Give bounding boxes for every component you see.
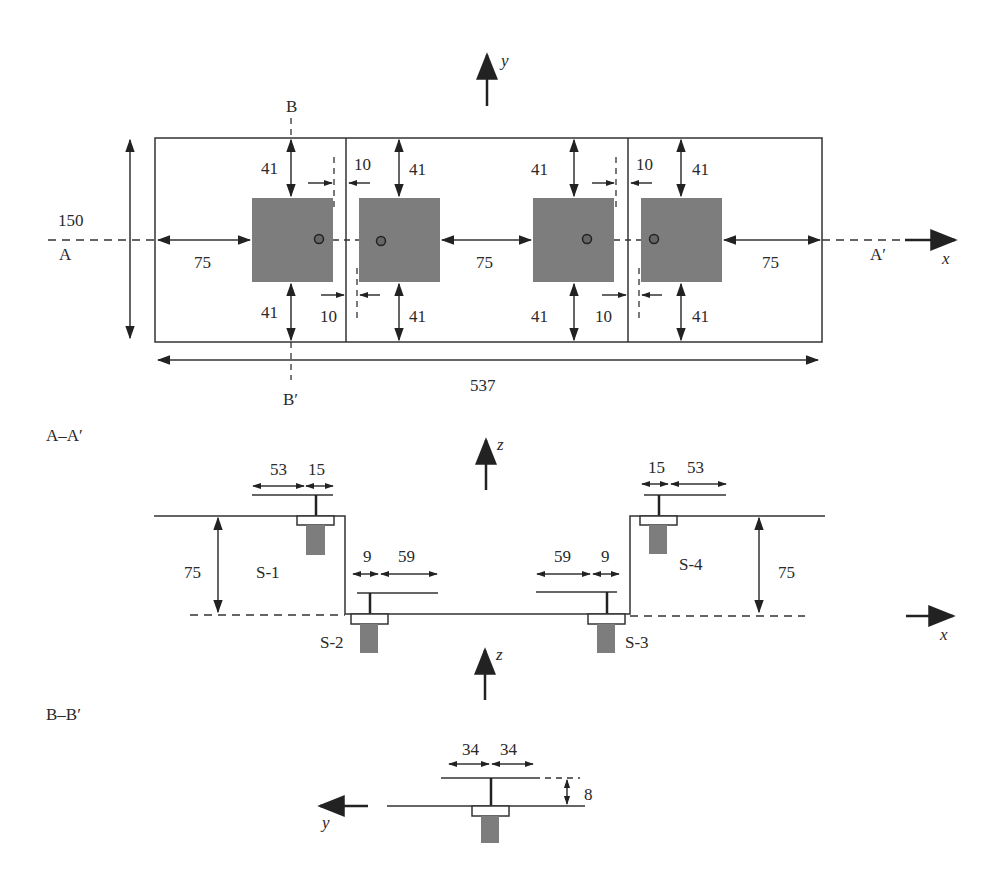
svg-text:59: 59 — [554, 547, 571, 566]
support-bb — [481, 816, 499, 843]
svg-text:75: 75 — [762, 253, 779, 272]
structural-diagram: y x B B′ A A′ 150 537 — [0, 0, 1001, 882]
section-profile — [154, 516, 825, 614]
svg-text:z: z — [496, 435, 504, 454]
pad-2 — [359, 198, 440, 282]
section-b-prime-label: B′ — [283, 390, 298, 409]
center-dot-2 — [377, 237, 386, 246]
svg-text:41: 41 — [531, 160, 548, 179]
svg-text:S-1: S-1 — [256, 563, 280, 582]
svg-text:75: 75 — [778, 563, 795, 582]
section-a-prime-label: A′ — [870, 245, 886, 264]
svg-text:41: 41 — [531, 307, 548, 326]
svg-text:41: 41 — [261, 303, 278, 322]
svg-text:59: 59 — [398, 547, 415, 566]
svg-text:41: 41 — [409, 160, 426, 179]
svg-text:10: 10 — [636, 155, 653, 174]
svg-text:41: 41 — [692, 160, 709, 179]
support-s2 — [360, 624, 378, 653]
svg-text:10: 10 — [595, 307, 612, 326]
svg-text:15: 15 — [648, 458, 665, 477]
section-aa: A–A′ z 53 15 S-1 75 9 59 S-2 — [46, 426, 953, 653]
center-dot-1 — [315, 235, 324, 244]
svg-text:z: z — [495, 645, 503, 664]
svg-text:75: 75 — [184, 563, 201, 582]
svg-text:34: 34 — [462, 740, 480, 759]
svg-text:75: 75 — [476, 253, 493, 272]
support-s4 — [649, 525, 667, 554]
svg-text:34: 34 — [500, 740, 518, 759]
svg-text:S-2: S-2 — [320, 633, 344, 652]
center-dot-3 — [583, 235, 592, 244]
svg-text:y: y — [320, 813, 330, 832]
svg-text:15: 15 — [308, 460, 325, 479]
x-axis-label: x — [941, 249, 950, 268]
svg-text:8: 8 — [584, 785, 593, 804]
svg-text:10: 10 — [354, 155, 371, 174]
svg-text:53: 53 — [687, 458, 704, 477]
y-axis-label: y — [499, 51, 509, 70]
plan-view: y x B B′ A A′ 150 537 — [48, 51, 955, 409]
section-aa-title: A–A′ — [46, 426, 83, 445]
y-axis-arrow-icon: y — [487, 51, 509, 106]
svg-text:41: 41 — [409, 307, 426, 326]
section-b-label: B — [286, 97, 297, 116]
svg-text:41: 41 — [692, 307, 709, 326]
svg-text:S-4: S-4 — [679, 555, 703, 574]
svg-text:9: 9 — [601, 547, 610, 566]
svg-text:S-3: S-3 — [625, 633, 649, 652]
svg-text:10: 10 — [320, 307, 337, 326]
section-bb-title: B–B′ — [46, 705, 81, 724]
svg-text:41: 41 — [261, 159, 278, 178]
svg-text:537: 537 — [470, 376, 496, 395]
section-bb: B–B′ z 34 34 8 y — [46, 645, 593, 843]
svg-text:x: x — [939, 625, 948, 644]
section-a-label: A — [59, 245, 72, 264]
svg-text:150: 150 — [58, 211, 84, 230]
support-s1 — [306, 525, 325, 555]
svg-text:9: 9 — [363, 547, 372, 566]
svg-text:53: 53 — [270, 460, 287, 479]
pad-3 — [533, 198, 614, 282]
svg-text:75: 75 — [194, 253, 211, 272]
support-s3 — [597, 624, 615, 653]
center-dot-4 — [650, 235, 659, 244]
